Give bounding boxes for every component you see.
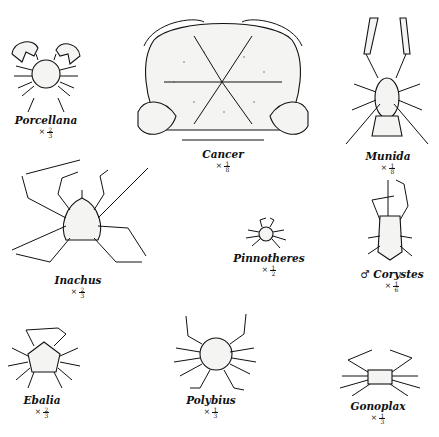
corystes-illustration [366,176,416,264]
scale-label: × 13 [342,413,414,424]
gonoplax-caption: Gonoplax × 13 [342,400,414,424]
specimen-name: Gonoplax [342,400,414,412]
specimen-name: Cancer [183,148,263,160]
ebalia-illustration [6,320,82,390]
scale-label: × 23 [8,127,84,138]
scale-label: × 18 [183,161,263,172]
specimen-name: Inachus [38,274,118,286]
scale-label: × 13 [176,407,246,418]
polybius-illustration [170,312,260,394]
scale-label: × 12 [230,265,308,276]
specimen-name: Pinnotheres [230,252,308,264]
scale-label: × 23 [10,407,74,418]
inachus-caption: Inachus × 23 [38,274,118,298]
scale-label: × 16 [354,281,430,292]
scale-label: × 23 [38,287,118,298]
munida-caption: Munida × 18 [350,150,426,174]
inachus-illustration [8,158,154,270]
scale-label: × 18 [350,163,426,174]
male-symbol: ♂ [360,268,369,280]
gonoplax-illustration [338,346,422,396]
ebalia-caption: Ebalia × 23 [10,394,74,418]
specimen-name: Porcellana [8,114,84,126]
specimen-name: Ebalia [10,394,74,406]
cancer-illustration [134,12,312,148]
specimen-name: Polybius [176,394,246,406]
corystes-caption: ♂ Corystes × 16 [354,268,430,292]
specimen-name: ♂ Corystes [354,268,430,280]
cancer-caption: Cancer × 18 [183,148,263,172]
pinnotheres-caption: Pinnotheres × 12 [230,252,308,276]
porcellana-caption: Porcellana × 23 [8,114,84,138]
munida-illustration [344,14,430,144]
pinnotheres-illustration [244,216,288,250]
polybius-caption: Polybius × 13 [176,394,246,418]
porcellana-illustration [8,36,84,112]
specimen-name: Munida [350,150,426,162]
